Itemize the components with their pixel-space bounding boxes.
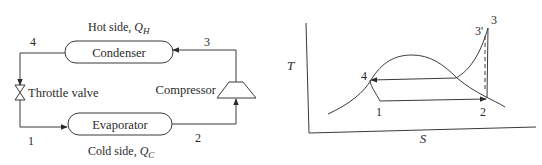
pipe-compressor-to-condenser xyxy=(173,50,236,82)
ts-axes xyxy=(306,23,536,133)
cycle-point-2: 2 xyxy=(195,131,201,145)
y-axis-label-T: T xyxy=(287,58,295,73)
ts-point-3: 3 xyxy=(491,13,497,27)
ts-diagram: T S 4 1 2 3 3' xyxy=(287,13,536,146)
throttle-line xyxy=(370,80,380,101)
compression-line xyxy=(487,28,488,98)
compressor-label: Compressor xyxy=(156,83,217,97)
condensation-line xyxy=(371,78,456,80)
pipe-condenser-to-throttle xyxy=(20,53,65,85)
ts-point-4: 4 xyxy=(361,69,367,83)
hot-side-label: Hot side, QH xyxy=(88,20,150,36)
cycle-point-3: 3 xyxy=(204,35,210,49)
cycle-schematic: Hot side, QH Condenser Evaporator Cold s… xyxy=(15,20,256,160)
condenser-label: Condenser xyxy=(92,46,146,60)
pipe-evaporator-to-compressor xyxy=(172,99,236,124)
saturation-dome xyxy=(328,55,505,114)
pipe-throttle-to-evaporator xyxy=(20,100,67,127)
cycle-point-1: 1 xyxy=(28,134,34,148)
cycle-point-4: 4 xyxy=(30,35,36,49)
x-axis-label-S: S xyxy=(420,131,427,146)
ts-point-2: 2 xyxy=(480,105,486,119)
compressor-icon xyxy=(217,82,256,98)
ts-point-1: 1 xyxy=(376,105,382,119)
ts-point-3-prime: 3' xyxy=(475,24,483,38)
throttle-valve-label: Throttle valve xyxy=(28,86,99,100)
superheat-curve xyxy=(456,28,488,78)
throttle-valve-icon xyxy=(15,85,25,100)
evaporator-label: Evaporator xyxy=(92,118,148,132)
evaporation-line xyxy=(380,99,486,101)
refrigeration-cycle-figure: Hot side, QH Condenser Evaporator Cold s… xyxy=(0,0,542,165)
cold-side-label: Cold side, QC xyxy=(88,144,155,160)
